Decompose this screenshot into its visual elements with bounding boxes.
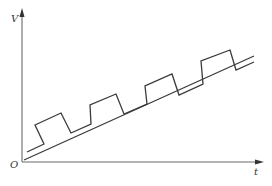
x-axis-arrow-icon — [255, 160, 264, 165]
y-axis-label: V — [11, 14, 18, 24]
origin-label: O — [10, 160, 18, 170]
x-axis-label: t — [254, 167, 258, 177]
axes — [20, 8, 265, 165]
voltage-time-diagram — [0, 0, 272, 186]
y-axis-arrow-icon — [20, 8, 25, 17]
pulse-train — [27, 50, 254, 152]
